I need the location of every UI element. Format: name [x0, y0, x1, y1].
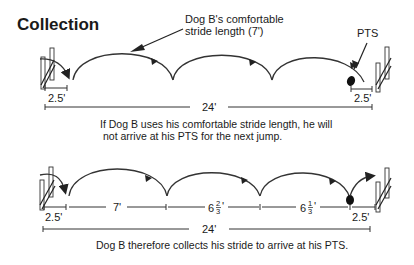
stride-arcs-bottom [69, 169, 350, 198]
takeoff-right-label-bottom: 2.5' [352, 211, 369, 223]
callout-line [140, 29, 183, 48]
jump-hurdle-icon [41, 48, 55, 89]
callout-arrow-icon [130, 44, 145, 52]
svg-text:6: 6 [208, 202, 214, 214]
stride1-label: 7' [113, 201, 121, 213]
pts-label: PTS [357, 27, 378, 39]
diagram-title: Collection [17, 15, 99, 34]
takeoff-left-label-bottom: 2.5' [45, 211, 62, 223]
svg-text:3: 3 [308, 207, 312, 216]
stride-arrow-icon [241, 177, 248, 184]
callout-line2: stride length (7') [185, 25, 264, 37]
jump-hurdle-icon [376, 47, 391, 92]
svg-text:6: 6 [300, 202, 306, 214]
stride3-label: 6 1 3 ' [300, 199, 316, 216]
jump-hurdle-icon [376, 168, 391, 212]
caption-bottom: Dog B therefore collects his stride to a… [96, 239, 348, 251]
svg-text:3: 3 [216, 207, 220, 216]
svg-text:': ' [314, 200, 316, 212]
total-label-bottom: 24' [202, 223, 216, 235]
takeoff-arrow-icon [350, 176, 372, 196]
total-label-top: 24' [202, 101, 216, 113]
pts-dot-icon [346, 75, 357, 87]
svg-text:': ' [222, 200, 224, 212]
collection-diagram: Collection Dog B's comfortable stride le… [0, 0, 414, 265]
stride2-label: 6 2 3 ' [208, 199, 224, 216]
takeoff-right-label: 2.5' [354, 92, 371, 104]
takeoff-left-label: 2.5' [48, 92, 65, 104]
takeoff-dimension-left [45, 85, 67, 91]
caption-top-line1: If Dog B uses his comfortable stride len… [100, 118, 332, 130]
stride-arrow-icon [151, 58, 158, 65]
stride-arcs-top [73, 54, 364, 82]
pts-dot-icon [346, 195, 354, 205]
callout-line1: Dog B's comfortable [185, 13, 284, 25]
caption-top-line2: not arrive at his PTS for the next jump. [103, 130, 282, 142]
